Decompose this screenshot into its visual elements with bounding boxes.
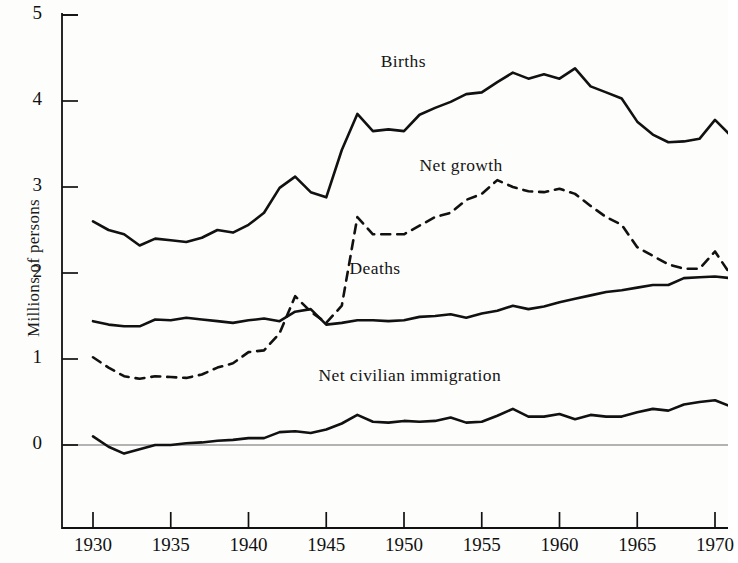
series-label-net-civilian-immigration: Net civilian immigration — [318, 365, 501, 386]
y-tick-label-1: 1 — [18, 346, 42, 368]
x-tick-label-1960: 1960 — [530, 534, 590, 556]
series-line-deaths — [93, 275, 728, 327]
y-tick-label-5: 5 — [18, 2, 42, 24]
x-tick-label-1955: 1955 — [452, 534, 512, 556]
series-label-births: Births — [381, 51, 426, 72]
y-tick-label-2: 2 — [18, 260, 42, 282]
y-tick-label-0: 0 — [18, 432, 42, 454]
series-line-net-growth — [93, 180, 728, 379]
series-line-births — [93, 68, 728, 245]
x-tick-label-1930: 1930 — [63, 534, 123, 556]
series-label-deaths: Deaths — [350, 258, 401, 279]
chart-series-curves — [93, 68, 728, 453]
x-tick-label-1950: 1950 — [374, 534, 434, 556]
y-tick-label-3: 3 — [18, 174, 42, 196]
y-tick-label-4: 4 — [18, 88, 42, 110]
x-tick-label-1970: 1970 — [685, 534, 738, 556]
x-tick-label-1965: 1965 — [607, 534, 667, 556]
series-label-net-growth: Net growth — [420, 155, 503, 176]
series-line-net-civilian-immigration — [93, 400, 728, 453]
x-tick-label-1940: 1940 — [219, 534, 279, 556]
x-tick-label-1935: 1935 — [141, 534, 201, 556]
x-tick-label-1945: 1945 — [296, 534, 356, 556]
